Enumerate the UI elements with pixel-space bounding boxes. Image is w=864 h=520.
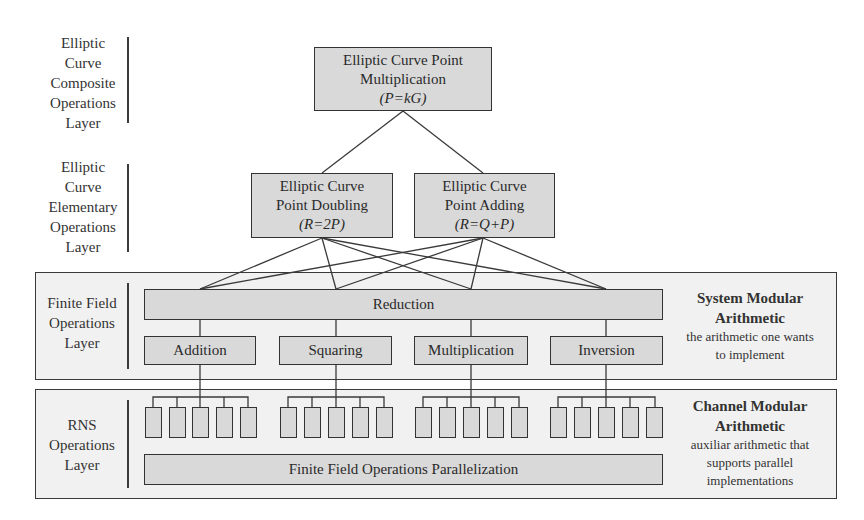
addition-node: Addition: [144, 336, 256, 365]
annotation-description: supports parallel: [670, 454, 830, 472]
node-label: Inversion: [578, 341, 635, 360]
node-label: Elliptic Curve: [442, 177, 527, 196]
annotation-description: implementations: [670, 472, 830, 490]
node-label: Elliptic Curve: [280, 177, 365, 196]
rns-channel-cell: [304, 407, 321, 438]
rns-channel-cell: [192, 407, 209, 438]
channel-modular-arithmetic-note: Channel Modular Arithmetic auxiliar arit…: [670, 396, 830, 490]
node-label: Multiplication: [428, 341, 514, 360]
node-label: Addition: [173, 341, 226, 360]
node-label: Point Adding: [445, 196, 525, 215]
point-multiplication-node: Elliptic Curve Point Multiplication (P=k…: [314, 47, 492, 111]
system-modular-arithmetic-note: System Modular Arithmetic the arithmetic…: [670, 288, 830, 364]
squaring-node: Squaring: [279, 336, 392, 365]
node-label: Reduction: [373, 295, 435, 314]
rns-channel-cell: [376, 407, 393, 438]
rns-channel-cell: [328, 407, 345, 438]
annotation-title: Channel Modular: [670, 396, 830, 416]
annotation-description: auxiliar arithmetic that: [670, 436, 830, 454]
annotation-title: Arithmetic: [670, 308, 830, 328]
rns-channel-cell: [169, 407, 186, 438]
rns-channel-cell: [646, 407, 663, 438]
node-formula: (P=kG): [380, 89, 427, 108]
reduction-node: Reduction: [144, 289, 663, 320]
rns-channel-cell: [511, 407, 528, 438]
annotation-description: to implement: [670, 346, 830, 364]
rns-channel-cell: [550, 407, 567, 438]
inversion-node: Inversion: [550, 336, 663, 365]
point-doubling-node: Elliptic Curve Point Doubling (R=2P): [251, 173, 393, 238]
node-label: Squaring: [308, 341, 362, 360]
multiplication-node: Multiplication: [414, 336, 528, 365]
point-adding-node: Elliptic Curve Point Adding (R=Q+P): [414, 173, 555, 238]
node-formula: (R=Q+P): [455, 215, 514, 234]
rns-channel-cell: [280, 407, 297, 438]
rns-channel-cell: [145, 407, 162, 438]
rns-channel-cell: [622, 407, 639, 438]
node-label: Elliptic Curve Point: [343, 51, 463, 70]
rns-channel-cell: [240, 407, 257, 438]
rns-channel-cell: [598, 407, 615, 438]
rns-channel-cell: [487, 407, 504, 438]
rns-channel-cell: [415, 407, 432, 438]
rns-channel-cell: [574, 407, 591, 438]
node-label: Multiplication: [360, 70, 446, 89]
parallelization-node: Finite Field Operations Parallelization: [144, 454, 663, 485]
node-label: Point Doubling: [276, 196, 368, 215]
node-label: Finite Field Operations Parallelization: [289, 460, 519, 479]
rns-channel-cell: [352, 407, 369, 438]
annotation-description: the arithmetic one wants: [670, 328, 830, 346]
rns-channel-cell: [463, 407, 480, 438]
rns-channel-cell: [216, 407, 233, 438]
node-formula: (R=2P): [299, 215, 345, 234]
annotation-title: Arithmetic: [670, 416, 830, 436]
annotation-title: System Modular: [670, 288, 830, 308]
rns-channel-cell: [439, 407, 456, 438]
